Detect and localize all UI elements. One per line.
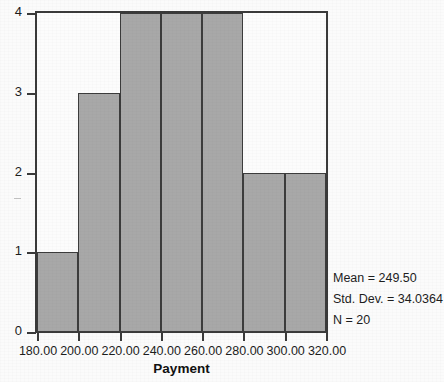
- histogram-bar: [243, 173, 284, 333]
- histogram-bar: [37, 252, 78, 332]
- y-tick-mark: [27, 93, 36, 95]
- x-tick-label: 320.00: [297, 344, 357, 358]
- statistics-annotation: Mean = 249.50 Std. Dev. = 34.0364 N = 20: [333, 268, 443, 331]
- histogram-bar: [161, 13, 202, 332]
- x-tick-mark: [37, 333, 39, 341]
- histogram-bar: [78, 93, 119, 332]
- y-tick-label: 3: [0, 84, 22, 99]
- x-tick-mark: [161, 333, 163, 341]
- scan-artifact-dash: [14, 198, 21, 199]
- histogram-chart: 01234 180.00200.00220.00240.00260.00280.…: [0, 0, 444, 382]
- x-tick-mark: [202, 333, 204, 341]
- x-tick-mark: [78, 333, 80, 341]
- stat-mean: Mean = 249.50: [333, 268, 443, 289]
- y-tick-mark: [27, 252, 36, 254]
- histogram-bars: [37, 13, 326, 332]
- x-axis-title: Payment: [35, 361, 328, 376]
- y-tick-label: 1: [0, 243, 22, 258]
- stat-count: N = 20: [333, 310, 443, 331]
- y-tick-mark: [27, 13, 36, 15]
- y-tick-label: 4: [0, 4, 22, 19]
- x-tick-mark: [120, 333, 122, 341]
- y-tick-label: 0: [0, 323, 22, 338]
- y-tick-mark: [27, 332, 36, 334]
- y-tick-label: 2: [0, 164, 22, 179]
- stat-stddev: Std. Dev. = 34.0364: [333, 289, 443, 310]
- y-tick-mark: [27, 173, 36, 175]
- x-tick-mark: [285, 333, 287, 341]
- histogram-bar: [202, 13, 243, 332]
- x-tick-mark: [243, 333, 245, 341]
- histogram-bar: [285, 173, 326, 333]
- x-tick-mark: [326, 333, 328, 341]
- histogram-bar: [120, 13, 161, 332]
